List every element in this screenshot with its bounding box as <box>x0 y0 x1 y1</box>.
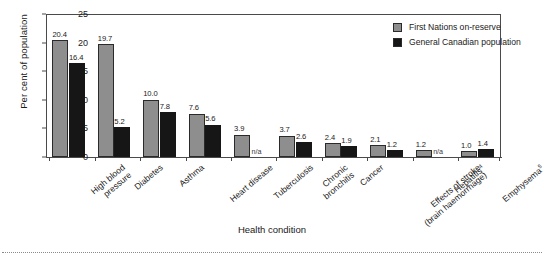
x-axis-category-label: Chronicbronchitis <box>315 163 356 201</box>
bar-value-label: 1.9 <box>341 136 351 145</box>
bar <box>189 114 205 157</box>
y-axis-title: Per cent of population <box>18 0 29 137</box>
x-axis-tick-mark <box>413 157 414 161</box>
bar-group: 3.9n/a <box>229 14 274 157</box>
bar <box>160 112 176 157</box>
x-axis-tick-mark <box>276 157 277 161</box>
legend-item-general-canadian: General Canadian population <box>393 37 521 47</box>
bar-group: 19.75.2 <box>92 14 137 157</box>
x-axis-tick-mark <box>140 157 141 161</box>
bar-group: 20.416.4 <box>47 14 92 157</box>
x-axis-category-label: Emphysema5 <box>500 163 544 205</box>
bar-value-label: 1.0 <box>461 141 471 150</box>
x-axis-category-label: Diabetes <box>133 163 165 192</box>
bar <box>234 135 250 157</box>
bar-value-label: 3.7 <box>279 125 289 134</box>
x-axis-tick-mark <box>367 157 368 161</box>
bar-value-label: 7.8 <box>160 102 170 111</box>
bar <box>296 142 312 157</box>
bar-value-label: 20.4 <box>52 30 66 39</box>
x-axis-category-label: High bloodpressure <box>89 163 133 204</box>
bar <box>387 150 403 157</box>
bar-value-label: 1.2 <box>387 140 397 149</box>
x-axis-title: Health condition <box>0 224 544 235</box>
legend-item-first-nations: First Nations on-reserve <box>393 22 521 32</box>
bar <box>461 151 477 157</box>
bar-value-label: 1.4 <box>478 139 488 148</box>
legend-label: First Nations on-reserve <box>409 22 501 32</box>
bar-value-label: 7.6 <box>189 103 199 112</box>
bar <box>69 63 85 157</box>
y-axis-tick-mark <box>42 99 46 100</box>
x-axis-tick-mark <box>95 157 96 161</box>
x-axis-category-label: Heart disease <box>228 163 275 204</box>
legend-swatch-icon-general-canadian <box>393 38 402 47</box>
bar-value-label: 2.1 <box>370 135 380 144</box>
bar-na-label: n/a <box>252 147 262 156</box>
x-axis-tick-mark <box>186 157 187 161</box>
bar <box>478 149 494 157</box>
x-axis-line <box>46 157 502 158</box>
x-axis-tick-mark <box>231 157 232 161</box>
bar-group: 2.41.9 <box>319 14 364 157</box>
bar-na-label: n/a <box>433 147 443 156</box>
bar <box>325 143 341 157</box>
bar-value-label: 2.6 <box>296 132 306 141</box>
y-axis-tick-mark <box>42 71 46 72</box>
x-axis-category-label: Asthma <box>177 163 206 189</box>
bar-value-label: 19.7 <box>98 34 112 43</box>
bar <box>416 150 432 157</box>
bar-group: 7.65.6 <box>183 14 228 157</box>
bar <box>98 44 114 157</box>
bar-value-label: 16.4 <box>69 53 83 62</box>
x-axis-category-label: Cancer <box>359 163 386 188</box>
bar-value-label: 3.9 <box>234 124 244 133</box>
legend: First Nations on-reserve General Canadia… <box>393 22 521 52</box>
bar <box>279 136 295 157</box>
bar <box>143 100 159 157</box>
bar <box>370 145 386 157</box>
legend-swatch-icon-first-nations <box>393 23 402 32</box>
bar <box>114 127 130 157</box>
bar-value-label: 10.0 <box>143 89 157 98</box>
bar-group: 10.07.8 <box>138 14 183 157</box>
x-axis-tick-mark <box>499 157 500 161</box>
x-axis-tick-mark <box>49 157 50 161</box>
bar-value-label: 5.2 <box>114 117 124 126</box>
y-axis-tick-mark <box>42 14 46 15</box>
bar-group: 3.72.6 <box>274 14 319 157</box>
bar-value-label: 2.4 <box>325 133 335 142</box>
x-axis-tick-mark <box>322 157 323 161</box>
bar-chart: Per cent of population 0510152025 20.416… <box>0 0 544 263</box>
x-axis-tick-mark <box>458 157 459 161</box>
bar-value-label: 5.6 <box>205 114 215 123</box>
bar <box>52 40 68 157</box>
x-axis-category-label: Tuberculosis <box>273 163 316 201</box>
y-axis-tick-mark <box>42 128 46 129</box>
y-axis-tick-mark <box>42 42 46 43</box>
bar-value-label: 1.2 <box>416 140 426 149</box>
legend-label: General Canadian population <box>409 37 521 47</box>
y-axis-tick-mark <box>42 157 46 158</box>
footer-divider <box>2 252 542 254</box>
bar <box>205 125 221 157</box>
bar <box>341 146 357 157</box>
